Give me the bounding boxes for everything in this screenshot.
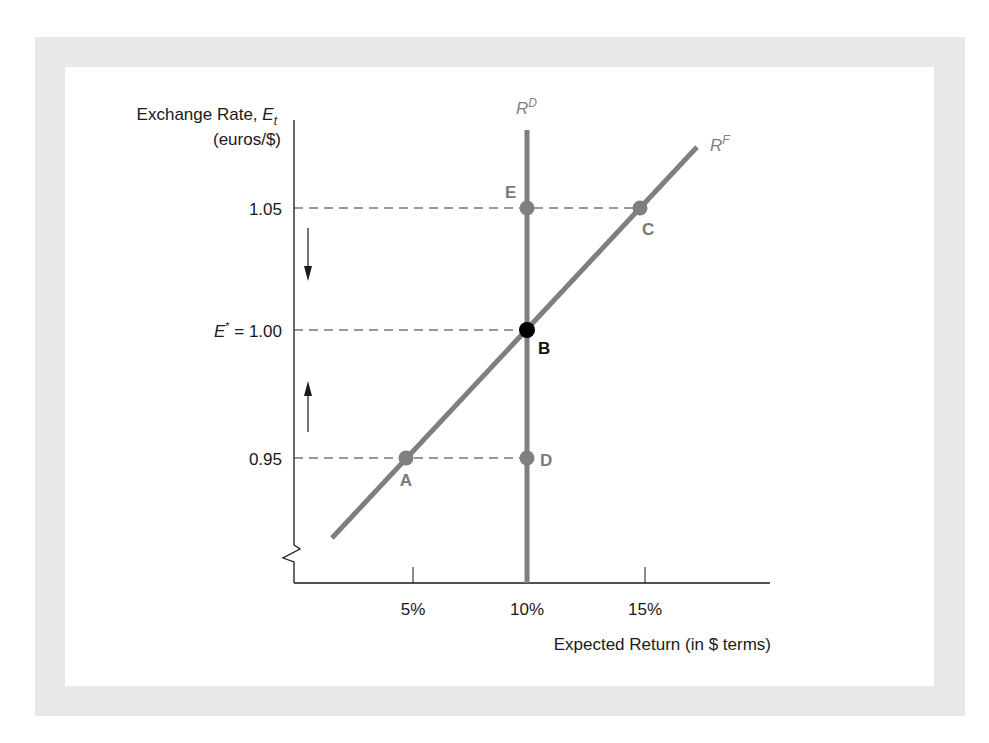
x-axis-title: Expected Return (in $ terms) [554, 635, 771, 654]
label-d: D [540, 451, 552, 470]
y-axis-title: Exchange Rate, Et [137, 105, 278, 128]
label-b: B [538, 339, 550, 358]
equilibrium-diagram: A B C D E RD RF Exchange Rate, Et (euros… [0, 0, 989, 743]
point-d [520, 451, 535, 466]
label-e: E [505, 183, 516, 202]
rf-label: RF [710, 133, 730, 155]
x-tick-label-10: 10% [510, 600, 544, 619]
label-c: C [642, 220, 654, 239]
y-tick-1-00: E* = 1.00 [214, 320, 282, 341]
rd-label: RD [516, 96, 537, 118]
down-arrow-icon [304, 228, 312, 281]
point-c [633, 201, 648, 216]
point-b [519, 322, 535, 338]
point-a [399, 451, 414, 466]
y-axis [283, 120, 300, 583]
label-a: A [400, 471, 412, 490]
y-tick-1-05: 1.05 [249, 200, 282, 219]
y-axis-units: (euros/$) [213, 130, 281, 149]
x-tick-label-5: 5% [401, 600, 426, 619]
up-arrow-icon [304, 381, 312, 432]
point-e [520, 201, 535, 216]
y-tick-0-95: 0.95 [249, 450, 282, 469]
x-tick-label-15: 15% [628, 600, 662, 619]
